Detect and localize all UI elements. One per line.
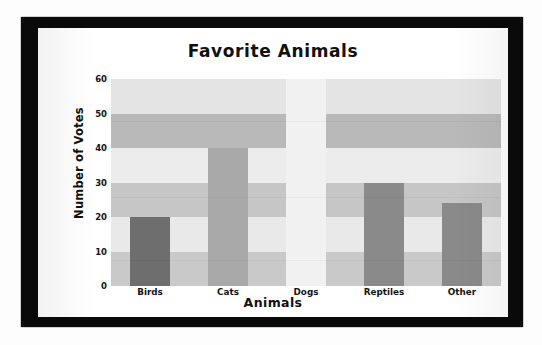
bar-birds (130, 217, 171, 286)
chart-title: Favorite Animals (38, 41, 508, 61)
bar-other (442, 203, 483, 286)
picture-frame-border: Favorite Animals Number of Votes 6050403… (21, 17, 523, 327)
y-tick-label: 0 (81, 282, 107, 291)
bar-cats (208, 148, 249, 286)
bar-dogs (286, 79, 327, 286)
poster-white-mat: Favorite Animals Number of Votes 6050403… (38, 28, 508, 317)
photograph-of-poster: Favorite Animals Number of Votes 6050403… (0, 0, 542, 345)
y-tick-label: 50 (81, 110, 107, 119)
y-axis-tick-labels: 6050403020100 (77, 79, 107, 286)
y-tick-label: 10 (81, 248, 107, 257)
bar-chart: Favorite Animals Number of Votes 6050403… (38, 28, 508, 317)
plot-area (111, 79, 501, 286)
y-tick-label: 60 (81, 75, 107, 84)
bar-reptiles (364, 183, 405, 287)
y-tick-label: 30 (81, 179, 107, 188)
x-axis-title: Animals (38, 295, 508, 310)
y-tick-label: 20 (81, 213, 107, 222)
y-tick-label: 40 (81, 144, 107, 153)
